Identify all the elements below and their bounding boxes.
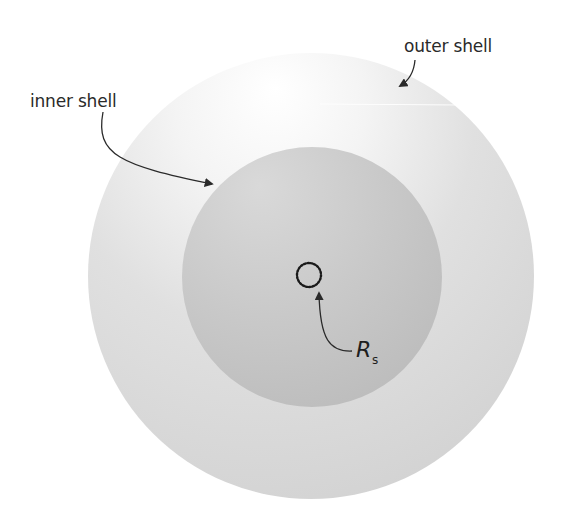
inner-shell: [182, 147, 442, 407]
radius-subscript: s: [372, 353, 378, 367]
concentric-shells-diagram: [0, 0, 586, 530]
inner-shell-label: inner shell: [30, 93, 116, 110]
radius-symbol: R: [356, 337, 371, 362]
outer-shell-label: outer shell: [404, 38, 492, 55]
schwarzschild-radius-label: Rs: [356, 339, 378, 364]
